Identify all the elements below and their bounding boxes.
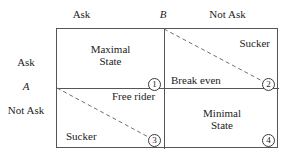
- row-header-ask: Ask: [0, 56, 52, 68]
- row-player-label-a: A: [0, 80, 52, 92]
- quadrant-ask-ask-title: Maximal State: [57, 43, 164, 67]
- label-break-even: Break even: [171, 74, 221, 86]
- label-free-rider: Free rider: [112, 90, 155, 102]
- column-header-ask: Ask: [0, 8, 163, 20]
- matrix-frame: Maximal State Sucker Sucker Minimal Stat…: [56, 28, 278, 148]
- row-header-not-ask: Not Ask: [0, 104, 52, 116]
- marker-circled-3: 3: [148, 134, 161, 147]
- marker-circled-2: 2: [262, 78, 275, 91]
- payoff-matrix-figure: Ask B Not Ask Ask A Not Ask Maximal Stat…: [0, 0, 293, 158]
- quadrant-notask-notask-title: Minimal State: [165, 107, 279, 131]
- marker-circled-4: 4: [262, 134, 275, 147]
- marker-circled-1: 1: [148, 78, 161, 91]
- column-header-not-ask: Not Ask: [176, 8, 279, 20]
- column-player-label-b: B: [150, 8, 176, 20]
- quadrant-notask-ask-sucker-label: Sucker: [66, 130, 97, 142]
- quadrant-ask-notask-sucker-label: Sucker: [239, 37, 270, 49]
- quadrant-ask-ask: Maximal State: [57, 29, 164, 88]
